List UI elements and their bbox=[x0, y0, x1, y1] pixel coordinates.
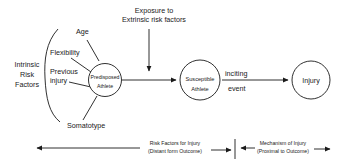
intrinsic-label-line3: Factors bbox=[15, 80, 39, 89]
timeline: Risk Factors for Injury (Distant form Ou… bbox=[37, 139, 330, 159]
exposure-label-line2: Extrinsic risk factors bbox=[122, 15, 186, 24]
factor-previous-injury-line2: injury bbox=[50, 76, 68, 85]
injury-label: Injury bbox=[302, 76, 320, 85]
connector-somatotype bbox=[83, 96, 97, 120]
factor-somatotype: Somatotype bbox=[67, 121, 105, 130]
connector-age bbox=[87, 40, 99, 61]
inciting-label: inciting bbox=[225, 69, 247, 78]
susceptible-label-line1: Susceptible bbox=[186, 76, 215, 82]
injury-causation-diagram: Intrinsic Risk Factors Age Flexibility P… bbox=[0, 0, 347, 164]
risk-factors-label-line1: Risk Factors for Injury bbox=[150, 140, 201, 146]
event-label: event bbox=[228, 84, 246, 93]
factor-flexibility: Flexibility bbox=[50, 48, 80, 57]
susceptible-label-line2: Athlete bbox=[191, 86, 208, 92]
mechanism-label-line2: (Proximal to Outcome) bbox=[257, 148, 309, 154]
predisposed-label-line1: Predisposed bbox=[91, 74, 120, 80]
risk-factors-label-line2: (Distant form Outcome) bbox=[148, 148, 202, 154]
intrinsic-label-line1: Intrinsic bbox=[15, 60, 40, 69]
predisposed-label-line2: Athlete bbox=[97, 83, 113, 89]
exposure-label-line1: Exposure to bbox=[135, 6, 173, 15]
factor-age: Age bbox=[76, 27, 89, 36]
mechanism-label-line1: Mechanism of Injury bbox=[260, 140, 307, 146]
connector-previous-injury bbox=[69, 82, 91, 87]
intrinsic-label-line2: Risk bbox=[20, 70, 34, 79]
node-predisposed-athlete: Predisposed Athlete bbox=[89, 64, 122, 97]
intrinsic-risk-factors-label: Intrinsic Risk Factors bbox=[15, 60, 40, 89]
node-susceptible-athlete: Susceptible Athlete bbox=[180, 60, 220, 100]
node-injury: Injury bbox=[292, 61, 330, 99]
factor-previous-injury-line1: Previous bbox=[50, 67, 78, 76]
